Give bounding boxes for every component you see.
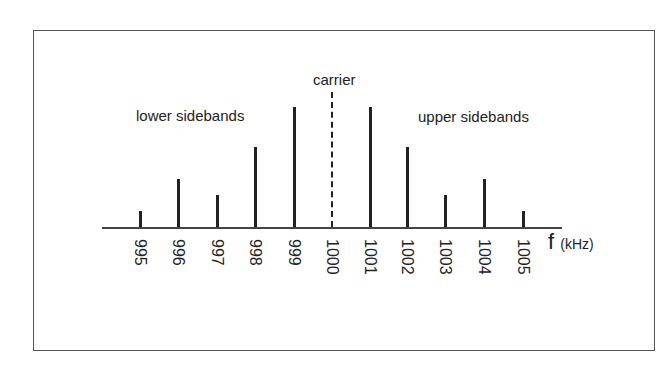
frequency-tick-label: 1000 — [323, 239, 341, 275]
frequency-tick-label: 1003 — [436, 239, 454, 275]
lower-sidebands-label: lower sidebands — [136, 107, 244, 124]
frequency-tick-label: 1001 — [361, 239, 379, 275]
sideband-line — [483, 179, 486, 227]
frequency-tick-label: 1004 — [475, 239, 493, 275]
frequency-tick-label: 995 — [131, 239, 149, 266]
frequency-axis-label: f (kHz) — [548, 229, 594, 255]
sideband-line — [177, 179, 180, 227]
carrier-line — [331, 92, 333, 227]
frequency-axis — [102, 227, 562, 229]
sideband-line — [216, 195, 219, 227]
sideband-line — [522, 211, 525, 227]
sideband-line — [444, 195, 447, 227]
sideband-line — [406, 147, 409, 227]
carrier-label: carrier — [313, 71, 356, 88]
unit-label: (kHz) — [560, 236, 593, 252]
frequency-tick-label: 1002 — [398, 239, 416, 275]
frequency-tick-label: 999 — [285, 239, 303, 266]
sideband-line — [369, 107, 372, 227]
f-symbol: f — [548, 229, 554, 254]
frequency-tick-label: 1005 — [514, 239, 532, 275]
frequency-tick-label: 996 — [169, 239, 187, 266]
sideband-line — [293, 107, 296, 227]
frequency-tick-label: 997 — [208, 239, 226, 266]
upper-sidebands-label: upper sidebands — [418, 108, 529, 125]
sideband-line — [254, 147, 257, 227]
sideband-line — [139, 211, 142, 227]
frequency-tick-label: 998 — [246, 239, 264, 266]
